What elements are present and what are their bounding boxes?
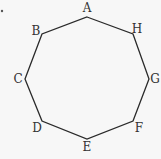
vertex-label-a: A [82, 1, 92, 15]
vertex-label-h: H [132, 22, 142, 36]
vertex-label-g: G [150, 72, 160, 86]
vertex-label-c: C [13, 72, 22, 86]
vertex-label-d: D [32, 121, 42, 135]
vertex-label-e: E [83, 140, 92, 154]
vertex-label-b: B [32, 24, 41, 38]
vertex-label-f: F [135, 121, 143, 135]
octagon-diagram: AHGFEDCB [0, 0, 161, 159]
octagon-svg: AHGFEDCB [0, 0, 161, 159]
octagon-shape [25, 17, 149, 139]
vertex-labels: AHGFEDCB [13, 1, 159, 154]
stray-dot [1, 10, 3, 12]
